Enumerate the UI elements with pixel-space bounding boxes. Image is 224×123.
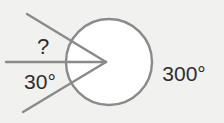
diagram-canvas: ? 30° 300° <box>0 0 224 123</box>
reflex-angle-label: 300° <box>162 62 205 85</box>
unknown-angle-label: ? <box>37 34 49 59</box>
known-angle-label: 30° <box>24 70 56 93</box>
angle-diagram: ? 30° 300° <box>0 0 224 123</box>
